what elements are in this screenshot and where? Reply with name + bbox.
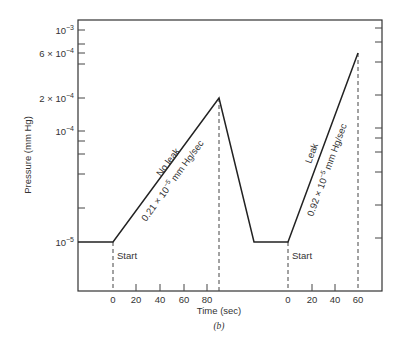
svg-text:0: 0 bbox=[110, 294, 115, 305]
svg-text:80: 80 bbox=[202, 294, 213, 305]
x-axis-label: Time (sec) bbox=[197, 305, 242, 316]
start-label-2: Start bbox=[292, 250, 312, 261]
left-ticks bbox=[78, 30, 85, 208]
svg-text:40: 40 bbox=[330, 294, 341, 305]
start-label-1: Start bbox=[117, 250, 137, 261]
right-ticks bbox=[375, 28, 382, 238]
svg-text:2 × 10−4: 2 × 10−4 bbox=[39, 92, 74, 104]
leak-rate: 0.92 × 10−5 mm Hg/sec bbox=[304, 121, 349, 217]
svg-text:60: 60 bbox=[353, 294, 364, 305]
svg-text:6 × 10−4: 6 × 10−4 bbox=[39, 47, 74, 59]
svg-text:10−4: 10−4 bbox=[55, 125, 74, 137]
x-tick-labels: 0 20 40 60 80 0 20 40 60 bbox=[110, 294, 363, 305]
svg-text:60: 60 bbox=[179, 294, 190, 305]
pressure-time-chart: 10−3 6 × 10−4 2 × 10−4 10−4 10−5 Pressur… bbox=[0, 0, 404, 342]
y-tick-labels: 10−3 6 × 10−4 2 × 10−4 10−4 10−5 bbox=[39, 24, 74, 248]
svg-text:20: 20 bbox=[307, 294, 318, 305]
x-ticks-1 bbox=[136, 284, 335, 291]
svg-text:20: 20 bbox=[131, 294, 142, 305]
y-axis-label: Pressure (mm Hg) bbox=[22, 116, 33, 194]
figure-caption: (b) bbox=[213, 321, 224, 332]
svg-text:40: 40 bbox=[155, 294, 166, 305]
svg-text:0: 0 bbox=[285, 294, 290, 305]
svg-text:10−5: 10−5 bbox=[55, 236, 74, 248]
svg-text:10−3: 10−3 bbox=[55, 24, 74, 36]
